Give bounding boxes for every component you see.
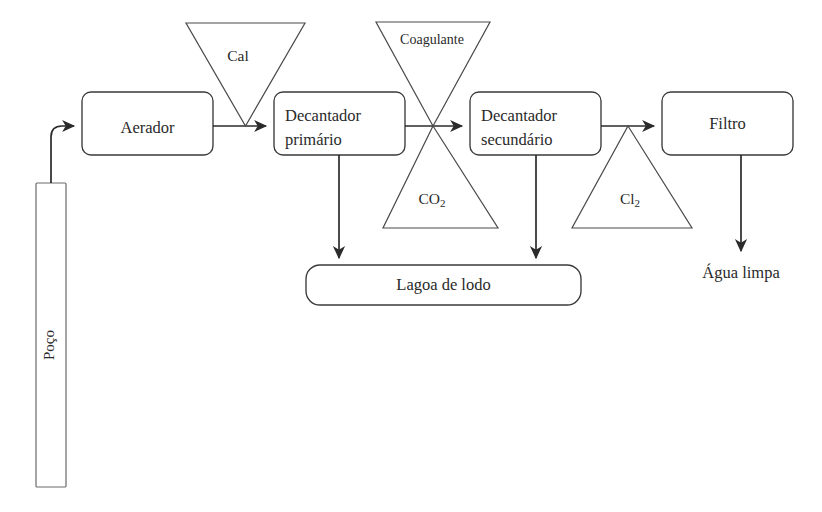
decantador-primario-label-line1: Decantador <box>285 106 362 125</box>
cl2-label-subscript: 2 <box>635 197 641 209</box>
co2-label-text: CO <box>418 190 440 207</box>
process-node-decantador-secundario[interactable]: Decantador secundário <box>470 92 601 155</box>
cl2-label-text: Cl <box>620 190 635 207</box>
co2-label-subscript: 2 <box>440 197 446 209</box>
process-node-aerador[interactable]: Aerador <box>82 92 213 155</box>
pipe-well-to-aerador <box>51 126 74 183</box>
process-node-decantador-primario[interactable]: Decantador primário <box>274 92 405 155</box>
co2-label: CO2 <box>418 190 445 209</box>
coagulante-label: Coagulante <box>400 32 464 47</box>
agua-limpa-label: Água limpa <box>702 263 780 282</box>
cl2-label: Cl2 <box>620 190 640 209</box>
lagoa-de-lodo-label: Lagoa de lodo <box>396 275 490 294</box>
well-label: Poço <box>41 330 57 360</box>
flowchart-canvas: Poço Aerador Decantador primário Decanta… <box>0 0 822 512</box>
cal-label: Cal <box>227 47 249 64</box>
decantador-secundario-label-line2: secundário <box>481 130 552 149</box>
flowchart-svg: Poço Aerador Decantador primário Decanta… <box>0 0 822 512</box>
aerador-label: Aerador <box>120 118 175 137</box>
filtro-label: Filtro <box>709 114 746 133</box>
decantador-secundario-label-line1: Decantador <box>481 106 558 125</box>
sludge-node-group[interactable]: Lagoa de lodo <box>306 265 581 305</box>
well-group: Poço <box>36 183 66 487</box>
process-node-filtro[interactable]: Filtro <box>662 92 793 155</box>
decantador-primario-label-line2: primário <box>285 130 342 149</box>
